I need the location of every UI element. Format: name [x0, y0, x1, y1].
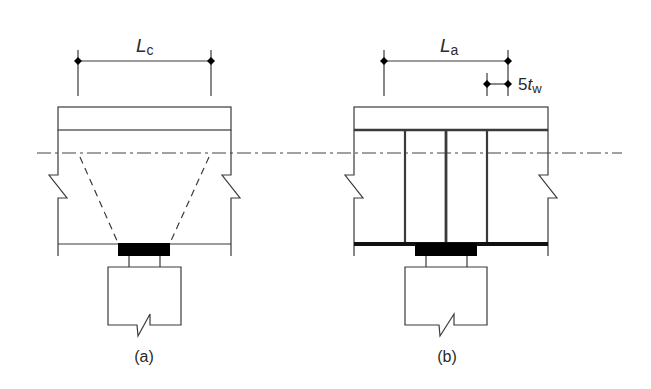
bearing-diagram: Lc (a)	[0, 0, 651, 389]
dispersion-line-left	[80, 157, 118, 243]
bearing-plate-a	[118, 243, 170, 256]
top-flange-b	[354, 107, 548, 130]
panel-b-dim-label: La	[440, 35, 459, 58]
panel-b-5tw-label: 5tw	[518, 75, 542, 96]
support-column-b	[405, 267, 487, 336]
bearing-plate-b	[415, 243, 477, 256]
dimension-lc	[74, 50, 215, 96]
panel-a-dim-label: Lc	[136, 35, 154, 58]
web-break-right-b	[539, 130, 557, 256]
panel-a	[49, 50, 240, 336]
panel-a-caption: (a)	[134, 348, 154, 365]
top-flange-a	[58, 107, 231, 130]
web-break-left-a	[49, 130, 67, 256]
support-column-a	[108, 267, 181, 336]
web-break-right-a	[222, 130, 240, 256]
dimension-la	[380, 50, 512, 96]
panel-b-caption: (b)	[437, 348, 457, 365]
web-break-left-b	[345, 130, 363, 256]
dispersion-line-right	[170, 157, 209, 243]
